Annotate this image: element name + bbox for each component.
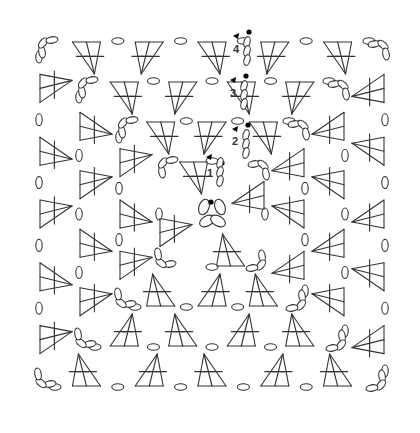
chain-stitch xyxy=(166,156,179,164)
round-4-side xyxy=(72,38,390,74)
chain-stitch xyxy=(382,48,390,61)
chain-stitch xyxy=(36,239,42,251)
round-1-side xyxy=(156,156,192,247)
center-ring xyxy=(197,198,228,230)
round-label-1: 1 xyxy=(207,167,213,179)
chain-stitch xyxy=(265,78,277,84)
chain-stitch xyxy=(180,304,192,310)
chain-stitch xyxy=(36,177,42,189)
round-4-side xyxy=(34,354,352,390)
chain-stitch xyxy=(156,208,162,220)
chain-stitch xyxy=(76,267,82,279)
chain-stitch xyxy=(302,128,310,141)
chain-stitch xyxy=(382,239,388,251)
chain-stitch xyxy=(262,168,270,181)
round-1-side xyxy=(180,158,271,194)
chain-stitch xyxy=(114,288,122,301)
chain-stitch xyxy=(326,344,339,352)
round-2-side xyxy=(114,274,278,310)
round-3-side xyxy=(76,76,112,316)
end-arrow xyxy=(232,126,238,132)
chain-stitch xyxy=(232,304,244,310)
chain-stitch xyxy=(342,267,348,279)
chain-stitch xyxy=(382,177,388,189)
chain-stitch xyxy=(366,384,379,392)
round-start-markers xyxy=(197,29,252,229)
chain-stitch xyxy=(206,78,218,84)
round-label-4: 4 xyxy=(233,43,240,55)
end-arrow xyxy=(233,33,239,39)
chain-stitch xyxy=(86,76,99,84)
chain-stitch xyxy=(206,158,218,164)
round-3-side xyxy=(74,314,314,350)
chain-stitch xyxy=(382,114,388,126)
round-4-side xyxy=(36,36,72,354)
round-1-side xyxy=(232,182,268,273)
chain-stitch xyxy=(300,384,312,390)
chain-stitch xyxy=(262,208,268,220)
chain-stitch xyxy=(246,264,259,272)
chain-stitch xyxy=(126,116,139,124)
chain-stitch xyxy=(112,384,124,390)
chain-stitch xyxy=(76,208,82,220)
chain-stitch xyxy=(36,114,42,126)
chain-stitch xyxy=(265,344,277,350)
chain-stitch xyxy=(342,208,348,220)
chain-stitch xyxy=(74,328,82,341)
round-1-side xyxy=(154,234,245,270)
round-3-side xyxy=(312,112,348,352)
crochet-chart: 1 2 3 4 xyxy=(0,0,420,433)
chain-stitch xyxy=(232,118,244,124)
chain-stitch xyxy=(175,384,187,390)
chain-stitch xyxy=(342,150,348,162)
chain-stitch xyxy=(76,150,82,162)
round-4-side xyxy=(352,74,388,392)
start-dot xyxy=(243,73,248,78)
round-label-2: 2 xyxy=(232,135,238,147)
round-2-side xyxy=(116,116,152,280)
start-dot xyxy=(246,29,251,34)
chain-stitch xyxy=(237,384,249,390)
chain-stitch xyxy=(342,88,350,101)
chain-stitch xyxy=(180,118,192,124)
chain-stitch xyxy=(116,182,122,194)
chain-stitch xyxy=(175,38,187,44)
round-2-side xyxy=(147,118,311,154)
chain-stitch xyxy=(46,36,59,44)
chain-stitch xyxy=(34,368,42,381)
start-dot xyxy=(245,122,250,127)
chain-stitch xyxy=(154,248,162,261)
chain-stitch xyxy=(112,38,124,44)
stitch-symbols xyxy=(34,36,390,392)
chain-stitch xyxy=(36,302,42,314)
chain-stitch xyxy=(206,344,218,350)
chain-stitch xyxy=(148,78,160,84)
chain-stitch xyxy=(300,38,312,44)
chain-stitch xyxy=(116,234,122,246)
chain-stitch xyxy=(206,264,218,270)
chain-stitch xyxy=(302,182,308,194)
chain-stitch xyxy=(286,304,299,312)
chain-stitch xyxy=(382,302,388,314)
round-2-side xyxy=(272,149,308,313)
chain-stitch xyxy=(302,234,308,246)
round-label-3: 3 xyxy=(230,87,236,99)
chain-stitch xyxy=(148,344,160,350)
